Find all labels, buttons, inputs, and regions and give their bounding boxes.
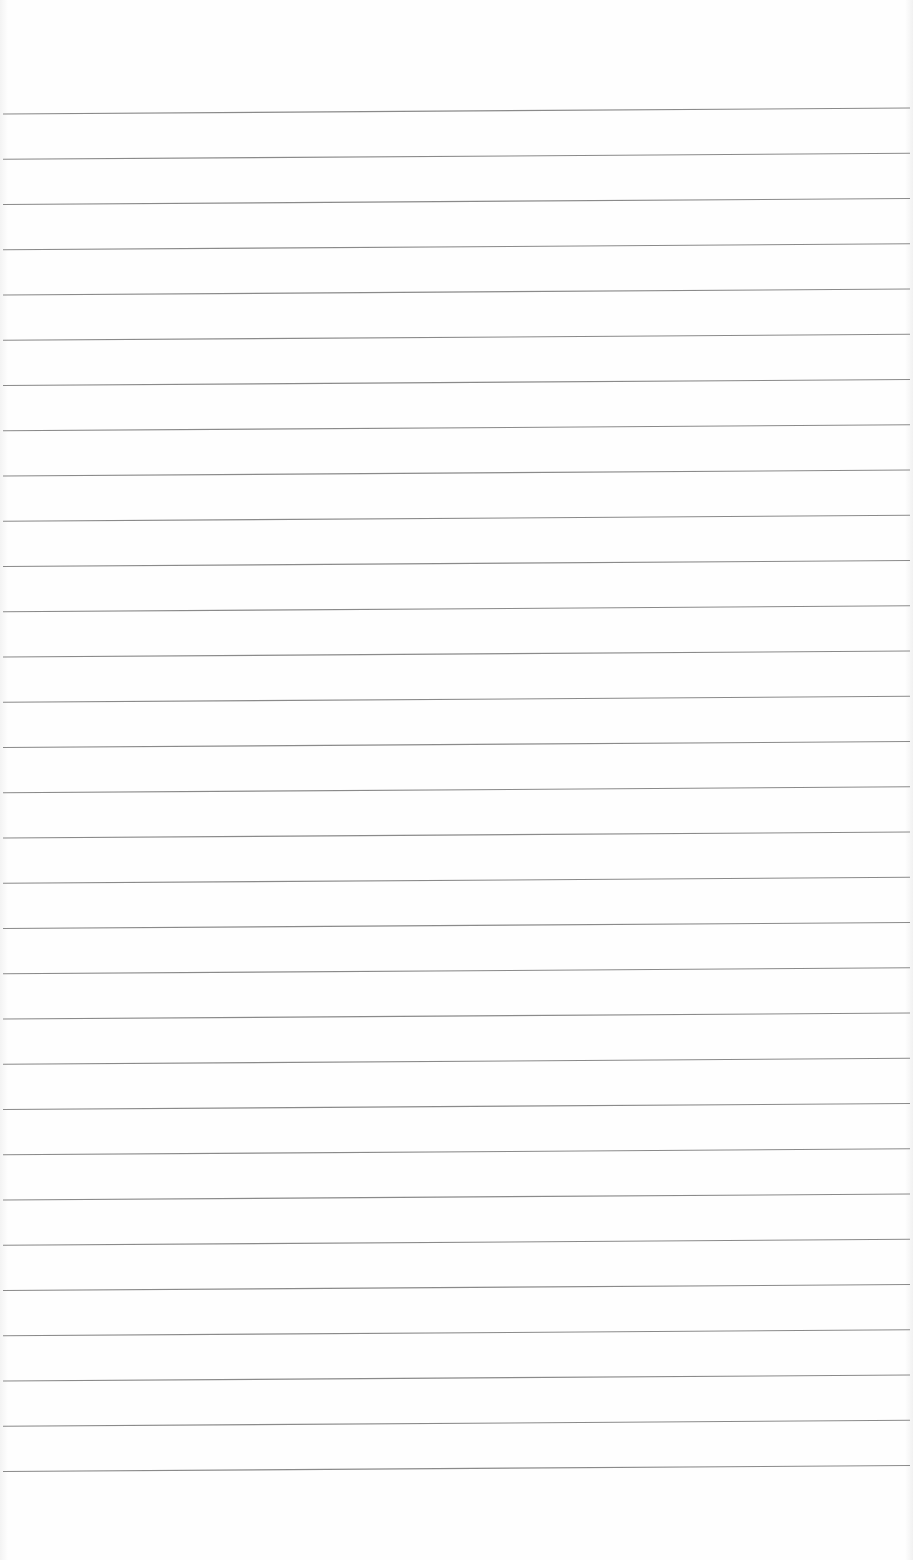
ruled-line <box>3 244 910 250</box>
ruled-line <box>3 742 910 748</box>
ruled-line <box>3 877 910 883</box>
ruled-line <box>3 1375 910 1381</box>
ruled-line <box>3 923 910 929</box>
ruled-line <box>3 1466 910 1472</box>
ruled-line <box>3 1149 910 1155</box>
ruled-line <box>3 199 910 205</box>
ruled-line <box>3 787 910 793</box>
ruled-line <box>3 153 910 159</box>
ruled-line <box>3 1104 910 1110</box>
ruled-line <box>3 380 910 386</box>
ruled-line <box>3 334 910 340</box>
ruled-line <box>3 1330 910 1336</box>
ruled-line <box>3 1058 910 1064</box>
ruled-line <box>3 108 910 114</box>
ruled-line <box>3 651 910 657</box>
ruled-line <box>3 425 910 431</box>
ruled-line <box>3 289 910 295</box>
ruled-line <box>3 515 910 521</box>
ruled-line <box>3 561 910 567</box>
ruled-line <box>3 696 910 702</box>
ruled-line <box>3 832 910 838</box>
ruled-line <box>3 606 910 612</box>
ruled-line <box>3 1420 910 1426</box>
ruled-line <box>3 1194 910 1200</box>
ruled-line <box>3 1013 910 1019</box>
ruled-line <box>3 470 910 476</box>
ruled-line <box>3 968 910 974</box>
lined-paper-sheet <box>0 0 913 1560</box>
ruled-line <box>3 1239 910 1245</box>
ruled-lines <box>0 0 913 1560</box>
ruled-line <box>3 1285 910 1291</box>
